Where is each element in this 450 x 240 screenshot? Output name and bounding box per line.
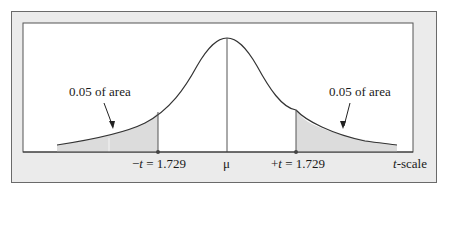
left-critical-point	[156, 150, 160, 154]
left-area-label: 0.05 of area	[69, 85, 131, 99]
neg-t-label: −t = 1.729	[132, 157, 186, 171]
mu-label: μ	[223, 157, 230, 171]
t-scale-label: t-scale	[393, 157, 427, 171]
right-critical-point	[294, 150, 298, 154]
pos-t-label: +t = 1.729	[271, 157, 325, 171]
right-area-label: 0.05 of area	[329, 85, 391, 99]
